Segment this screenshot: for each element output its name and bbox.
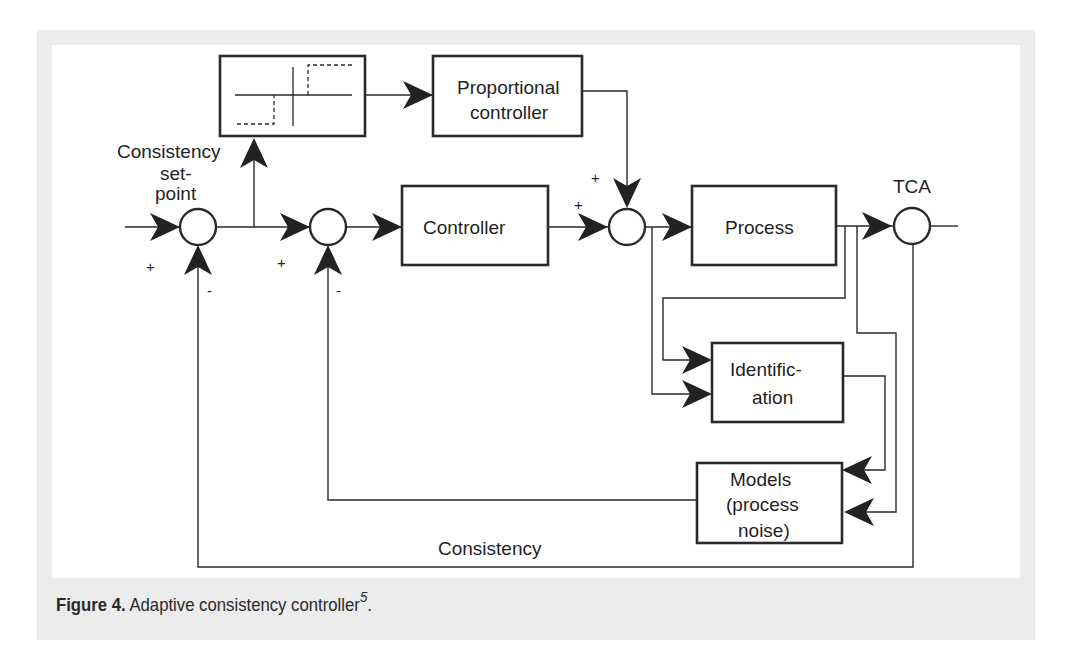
proportional-label-2: controller: [470, 102, 549, 123]
plus-sign-3: +: [574, 196, 583, 213]
block-diagram: Proportional controller Controller Proce…: [0, 0, 1068, 647]
controller-label: Controller: [423, 217, 506, 238]
summing-junction-1: [180, 209, 216, 245]
feedback-label: Consistency: [438, 538, 542, 559]
models-label-2: (process: [726, 494, 799, 515]
setpoint-label-1: Consistency: [117, 141, 221, 162]
caption-reference: 5: [360, 588, 367, 605]
caption-label: Figure 4.: [56, 594, 126, 615]
caption-text: Adaptive consistency controller: [126, 594, 360, 615]
figure-caption: Figure 4. Adaptive consistency controlle…: [56, 588, 372, 616]
plus-sign-2: +: [277, 254, 286, 271]
minus-sign-2: -: [336, 282, 341, 299]
proportional-label-1: Proportional: [457, 77, 559, 98]
identification-block: [712, 343, 843, 422]
tca-label: TCA: [893, 176, 931, 197]
summing-junction-tca: [894, 208, 930, 244]
setpoint-label-2: set-: [160, 163, 192, 184]
summing-junction-3: [609, 209, 645, 245]
summing-junction-2: [310, 209, 346, 245]
caption-end: .: [367, 594, 372, 615]
identification-label-2: ation: [752, 387, 793, 408]
models-label-1: Models: [730, 469, 791, 490]
plus-sign-4: +: [591, 169, 600, 186]
minus-sign-1: -: [207, 282, 212, 299]
plus-sign-1: +: [146, 258, 155, 275]
process-label: Process: [725, 217, 794, 238]
identification-label-1: Identific-: [730, 359, 802, 380]
arrowhead-icons: [150, 81, 892, 526]
setpoint-label-3: point: [155, 183, 197, 204]
models-label-3: noise): [738, 520, 790, 541]
